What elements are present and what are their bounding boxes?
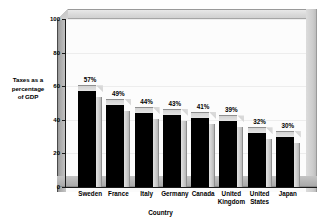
y-axis-tick-label: 60 bbox=[38, 83, 60, 89]
bar-value-label: 30% bbox=[273, 122, 303, 129]
bar-value-label: 32% bbox=[245, 118, 275, 125]
bar-value-label: 41% bbox=[188, 103, 218, 110]
y-axis-tick bbox=[62, 86, 65, 87]
y-axis-tick-label: 0 bbox=[38, 184, 60, 190]
bar-side-face bbox=[96, 97, 102, 187]
bar-front-face bbox=[248, 133, 266, 187]
bar bbox=[248, 133, 266, 187]
bar-side-face bbox=[294, 143, 300, 187]
bar-top-face bbox=[191, 112, 209, 118]
y-axis-tick-label: 40 bbox=[38, 117, 60, 123]
bar-top-face bbox=[276, 131, 294, 137]
bar-front-face bbox=[163, 115, 181, 187]
bar-side-face bbox=[237, 127, 243, 187]
bar-front-face bbox=[106, 105, 124, 187]
x-axis-line bbox=[66, 187, 317, 188]
bar-side-face bbox=[124, 111, 130, 187]
bar-side-face bbox=[153, 119, 159, 187]
y-axis-tick-label: 80 bbox=[38, 50, 60, 56]
plot-left-wall-edge bbox=[57, 18, 58, 192]
bar bbox=[135, 113, 153, 187]
bar-chart: Taxes as a percentage of GDP 02040608010… bbox=[0, 0, 321, 224]
frame-right-face bbox=[306, 9, 317, 192]
bar-top-face bbox=[135, 107, 153, 113]
gridline bbox=[66, 19, 306, 20]
bar-value-label: 49% bbox=[103, 90, 133, 97]
y-axis-tick bbox=[62, 120, 65, 121]
bar-front-face bbox=[219, 121, 237, 187]
bar-top-face bbox=[78, 85, 96, 91]
bar-front-face bbox=[191, 118, 209, 187]
bar-side-face bbox=[181, 121, 187, 187]
bar-value-label: 44% bbox=[132, 98, 162, 105]
x-axis-category-label: Japan bbox=[268, 190, 308, 198]
bar-top-face bbox=[219, 115, 237, 121]
y-axis-tick bbox=[62, 53, 65, 54]
bar-top-face bbox=[248, 127, 266, 133]
bar-front-face bbox=[78, 91, 96, 187]
bar-side-face bbox=[266, 139, 272, 187]
y-axis-tick bbox=[62, 153, 65, 154]
y-axis-tick bbox=[62, 19, 65, 20]
bar-value-label: 39% bbox=[216, 106, 246, 113]
bar bbox=[191, 118, 209, 187]
x-axis-title: Country bbox=[0, 209, 321, 216]
bar bbox=[163, 115, 181, 187]
bar bbox=[219, 121, 237, 187]
bar bbox=[106, 105, 124, 187]
y-axis-line bbox=[65, 19, 66, 188]
bar-top-face bbox=[163, 109, 181, 115]
x-axis-category-label-line: Japan bbox=[268, 190, 308, 198]
bar-front-face bbox=[276, 137, 294, 187]
bar-value-label: 57% bbox=[75, 76, 105, 83]
bar-side-face bbox=[209, 124, 215, 187]
y-axis-tick bbox=[62, 187, 65, 188]
y-axis-tick-label: 20 bbox=[38, 150, 60, 156]
y-axis-title-line-3: of GDP bbox=[2, 93, 54, 102]
bar-top-face bbox=[106, 99, 124, 105]
bar-value-label: 43% bbox=[160, 100, 190, 107]
y-axis-tick-label: 100 bbox=[38, 16, 60, 22]
bar bbox=[276, 137, 294, 187]
gridline bbox=[66, 53, 306, 54]
x-axis-category-label-line: States bbox=[240, 198, 280, 206]
bar bbox=[78, 91, 96, 187]
bar-front-face bbox=[135, 113, 153, 187]
